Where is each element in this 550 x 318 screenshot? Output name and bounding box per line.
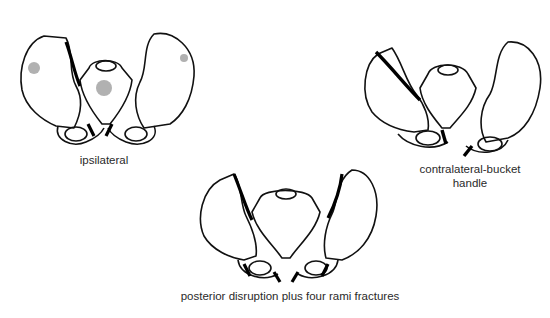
- pelvis-icon: [14, 28, 199, 156]
- pelvis-contralateral-illustration: [358, 34, 544, 158]
- label-posterior: posterior disruption plus four rami frac…: [140, 289, 440, 303]
- pelvis-posterior-illustration: [194, 164, 380, 286]
- label-contralateral-line2: handle: [400, 176, 540, 190]
- pelvis-icon: [194, 164, 380, 286]
- label-contralateral-line1: contralateral-bucket: [400, 162, 540, 176]
- pelvis-ipsilateral-illustration: [14, 28, 199, 156]
- pelvis-icon: [358, 34, 544, 158]
- label-ipsilateral: ipsilateral: [54, 153, 154, 167]
